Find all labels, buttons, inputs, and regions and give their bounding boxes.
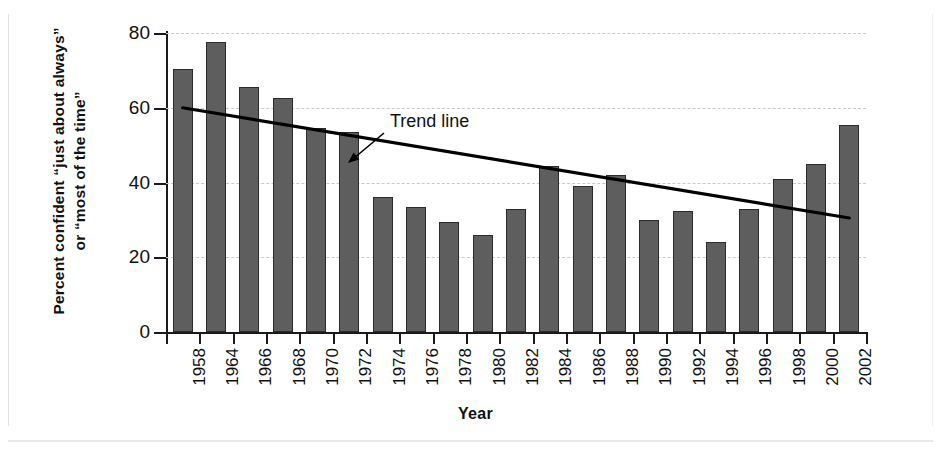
bar bbox=[639, 220, 659, 332]
y-axis-tick-label: 40 bbox=[129, 172, 150, 194]
y-axis-tick-label: 0 bbox=[139, 321, 150, 343]
x-axis-tick-label: 1982 bbox=[523, 348, 543, 386]
bar bbox=[339, 132, 359, 332]
y-axis-tick-mark bbox=[154, 257, 166, 259]
x-axis-tick-label: 1994 bbox=[723, 348, 743, 386]
bar bbox=[373, 197, 393, 332]
x-axis-tick-mark bbox=[433, 332, 435, 344]
y-axis-tick-label: 20 bbox=[129, 246, 150, 268]
figure-frame-left-rule bbox=[8, 14, 9, 426]
bar bbox=[739, 209, 759, 332]
x-axis-tick-mark bbox=[699, 332, 701, 344]
bar bbox=[606, 175, 626, 332]
x-axis-tick-label: 1966 bbox=[256, 348, 276, 386]
bar bbox=[773, 179, 793, 332]
bar bbox=[673, 211, 693, 332]
x-axis-tick-mark bbox=[233, 332, 235, 344]
x-axis-tick-label: 1990 bbox=[656, 348, 676, 386]
bar bbox=[506, 209, 526, 332]
x-axis-tick-mark bbox=[533, 332, 535, 344]
x-axis-tick-label: 1986 bbox=[590, 348, 610, 386]
x-axis-tick-mark bbox=[566, 332, 568, 344]
bar bbox=[473, 235, 493, 332]
x-axis-tick-label: 1976 bbox=[423, 348, 443, 386]
figure-frame-right-rule bbox=[932, 14, 933, 426]
bar bbox=[839, 125, 859, 332]
y-axis-tick-mark bbox=[154, 33, 166, 35]
x-axis-tick-mark bbox=[833, 332, 835, 344]
x-axis-tick-label: 1968 bbox=[290, 348, 310, 386]
x-axis-tick-label: 1974 bbox=[390, 348, 410, 386]
bar bbox=[439, 222, 459, 332]
x-axis-tick-label: 1996 bbox=[756, 348, 776, 386]
x-axis-tick-mark bbox=[799, 332, 801, 344]
x-axis-tick-mark bbox=[666, 332, 668, 344]
x-axis-tick-label: 1964 bbox=[223, 348, 243, 386]
bar bbox=[239, 87, 259, 332]
x-axis-tick-label: 1972 bbox=[356, 348, 376, 386]
x-axis-tick-label: 1970 bbox=[323, 348, 343, 386]
bar bbox=[206, 42, 226, 332]
x-axis-tick-mark bbox=[866, 332, 868, 344]
x-axis-tick-label: 1998 bbox=[790, 348, 810, 386]
bar bbox=[539, 166, 559, 332]
x-axis-tick-label: 2000 bbox=[823, 348, 843, 386]
x-axis-tick-label: 1978 bbox=[456, 348, 476, 386]
y-axis-title: Percent confident “just about always” or… bbox=[49, 11, 91, 331]
bar bbox=[406, 207, 426, 332]
bar bbox=[806, 164, 826, 332]
x-axis-tick-mark bbox=[166, 332, 168, 344]
bar bbox=[573, 186, 593, 332]
x-axis-tick-mark bbox=[366, 332, 368, 344]
bar bbox=[706, 242, 726, 332]
bar bbox=[306, 128, 326, 332]
y-axis-tick-label: 60 bbox=[129, 97, 150, 119]
x-axis-title: Year bbox=[0, 405, 951, 423]
y-axis-tick-mark bbox=[154, 108, 166, 110]
trend-line-annotation-label: Trend line bbox=[390, 111, 469, 132]
chart-figure: Percent confident “just about always” or… bbox=[0, 0, 951, 455]
y-axis-title-line-1: Percent confident “just about always” bbox=[50, 27, 67, 314]
x-axis-tick-mark bbox=[299, 332, 301, 344]
figure-frame-bottom-rule bbox=[8, 440, 933, 442]
x-axis-tick-mark bbox=[266, 332, 268, 344]
plot-area: 020406080 bbox=[166, 33, 866, 332]
y-axis-tick-mark bbox=[154, 183, 166, 185]
x-axis-tick-mark bbox=[399, 332, 401, 344]
x-axis-tick-label: 1984 bbox=[556, 348, 576, 386]
x-axis-tick-label: 2002 bbox=[856, 348, 876, 386]
x-axis-tick-label: 1980 bbox=[490, 348, 510, 386]
y-axis-tick-mark bbox=[154, 332, 166, 334]
x-axis-tick-mark bbox=[199, 332, 201, 344]
y-axis-title-line-2: or “most of the time” bbox=[71, 91, 88, 250]
bar-series bbox=[166, 33, 866, 332]
x-axis-tick-mark bbox=[633, 332, 635, 344]
x-axis-tick-mark bbox=[466, 332, 468, 344]
x-axis-line bbox=[166, 332, 868, 334]
x-axis-tick-label: 1988 bbox=[623, 348, 643, 386]
x-axis-tick-label: 1992 bbox=[690, 348, 710, 386]
x-axis-tick-label: 1958 bbox=[190, 348, 210, 386]
x-axis-tick-mark bbox=[499, 332, 501, 344]
y-axis-tick-label: 80 bbox=[129, 22, 150, 44]
bar bbox=[273, 98, 293, 332]
x-axis-tick-mark bbox=[766, 332, 768, 344]
bar bbox=[173, 69, 193, 332]
x-axis-tick-mark bbox=[333, 332, 335, 344]
x-axis-tick-mark bbox=[599, 332, 601, 344]
x-axis-tick-mark bbox=[733, 332, 735, 344]
